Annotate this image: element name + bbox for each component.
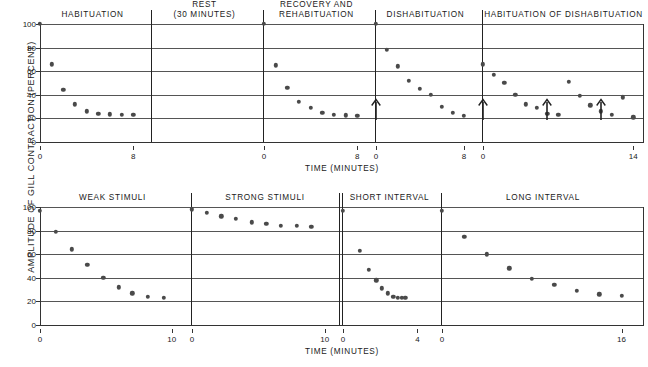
data-point bbox=[96, 111, 100, 115]
data-point bbox=[610, 113, 614, 117]
data-point bbox=[343, 113, 347, 117]
x-tick-mark bbox=[357, 146, 358, 150]
data-point bbox=[597, 292, 601, 296]
panel-title: DISHABITUATION bbox=[387, 10, 465, 19]
x-tick-mark bbox=[376, 146, 377, 150]
stimulus-arrow-icon bbox=[542, 98, 553, 124]
x-tick-mark bbox=[40, 146, 41, 150]
data-point bbox=[279, 224, 283, 228]
data-point bbox=[332, 113, 336, 117]
x-axis-title: TIME (MINUTES) bbox=[305, 164, 379, 173]
gridline bbox=[40, 118, 644, 119]
x-tick-mark bbox=[464, 146, 465, 150]
y-axis-spine bbox=[40, 24, 41, 142]
x-tick-label: 14 bbox=[629, 152, 638, 161]
data-point bbox=[588, 103, 592, 107]
data-point bbox=[49, 62, 53, 66]
data-point bbox=[492, 73, 496, 77]
data-point bbox=[308, 106, 312, 110]
data-point bbox=[485, 252, 489, 256]
gridline bbox=[40, 48, 644, 49]
y-axis-spine bbox=[40, 207, 41, 325]
data-point bbox=[620, 95, 624, 99]
data-point bbox=[162, 296, 166, 300]
data-point bbox=[273, 63, 277, 67]
data-point bbox=[481, 62, 485, 66]
data-point bbox=[297, 100, 301, 104]
panel-separator bbox=[342, 193, 343, 325]
data-point bbox=[54, 230, 58, 234]
data-point bbox=[101, 276, 105, 280]
data-point bbox=[507, 266, 511, 270]
y-tick-label: 80 bbox=[10, 43, 36, 52]
panel-title: REST(30 MINUTES) bbox=[173, 0, 235, 19]
data-point bbox=[429, 93, 433, 97]
gridline bbox=[40, 95, 644, 96]
y-tick-label: 20 bbox=[10, 114, 36, 123]
panel-separator bbox=[339, 193, 340, 325]
x-tick-label: 8 bbox=[462, 152, 466, 161]
data-point bbox=[285, 86, 289, 90]
data-point bbox=[574, 289, 578, 293]
panel-title: HABITUATION OF DISHABITUATION bbox=[484, 10, 643, 19]
data-point bbox=[513, 93, 517, 97]
y-tick-label: 0 bbox=[10, 138, 36, 147]
y-tick-mark bbox=[36, 325, 40, 326]
data-point bbox=[534, 106, 538, 110]
data-point bbox=[530, 277, 534, 281]
data-point bbox=[462, 234, 466, 238]
panel-title: SHORT INTERVAL bbox=[350, 193, 430, 202]
data-point bbox=[358, 248, 362, 252]
data-point bbox=[108, 112, 112, 116]
x-tick-mark bbox=[133, 146, 134, 150]
gridline bbox=[40, 142, 644, 143]
panel-title: HABITUATION bbox=[61, 10, 123, 19]
right-axis-spine bbox=[643, 24, 644, 142]
x-tick-label: 0 bbox=[481, 152, 485, 161]
x-tick-label: 0 bbox=[38, 335, 42, 344]
stimulus-arrow-icon bbox=[371, 98, 382, 124]
y-tick-label: 80 bbox=[10, 226, 36, 235]
x-tick-mark bbox=[343, 329, 344, 333]
data-point bbox=[374, 22, 378, 26]
panel-separator bbox=[263, 10, 264, 142]
x-tick-mark bbox=[417, 329, 418, 333]
x-tick-mark bbox=[40, 329, 41, 333]
data-point bbox=[320, 110, 324, 114]
data-point bbox=[190, 207, 194, 211]
data-point bbox=[552, 283, 556, 287]
data-point bbox=[440, 208, 444, 212]
data-point bbox=[262, 22, 266, 26]
data-point bbox=[619, 293, 623, 297]
data-point bbox=[295, 224, 299, 228]
bottom-chart-x-axis: 01001004016TIME (MINUTES) bbox=[40, 329, 644, 359]
x-tick-mark bbox=[325, 329, 326, 333]
panel-title: WEAK STIMULI bbox=[79, 193, 146, 202]
y-tick-label: 20 bbox=[10, 297, 36, 306]
data-point bbox=[38, 208, 42, 212]
y-tick-label: 60 bbox=[10, 67, 36, 76]
data-point bbox=[374, 278, 378, 282]
data-point bbox=[69, 247, 73, 251]
stimulus-arrow-icon bbox=[596, 98, 607, 124]
data-point bbox=[502, 81, 506, 85]
data-point bbox=[556, 113, 560, 117]
panel-separator bbox=[151, 10, 152, 142]
x-tick-label: 8 bbox=[131, 152, 135, 161]
gridline bbox=[40, 24, 644, 25]
data-point bbox=[38, 22, 42, 26]
data-point bbox=[524, 102, 528, 106]
data-point bbox=[130, 291, 134, 295]
top-chart-x-axis: 080808014TIME (MINUTES) bbox=[40, 146, 644, 176]
data-point bbox=[385, 48, 389, 52]
x-tick-label: 0 bbox=[190, 335, 194, 344]
data-point bbox=[219, 214, 223, 218]
data-point bbox=[234, 217, 238, 221]
y-tick-label: 100 bbox=[10, 20, 36, 29]
x-tick-label: 16 bbox=[617, 335, 626, 344]
panel-title: RECOVERY ANDREHABITUATION bbox=[279, 0, 354, 19]
data-point bbox=[407, 78, 411, 82]
x-tick-mark bbox=[622, 329, 623, 333]
data-point bbox=[264, 221, 268, 225]
data-point bbox=[380, 286, 384, 290]
